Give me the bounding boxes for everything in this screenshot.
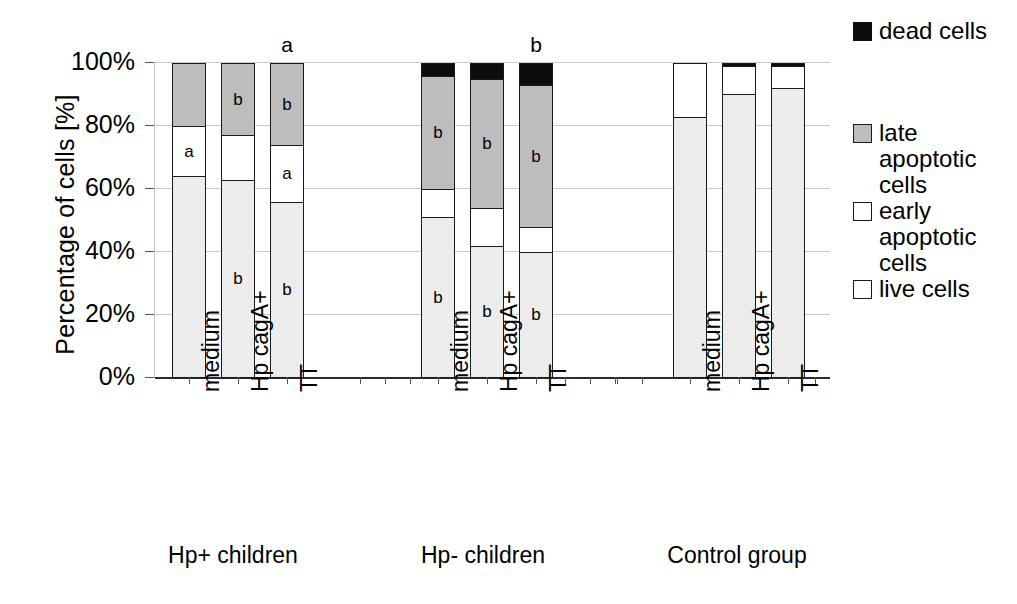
legend-swatch-early-icon — [853, 202, 872, 221]
segment-significance-letter: b — [531, 148, 540, 165]
legend-label-early-line-1: apoptotic — [879, 224, 1017, 250]
x-tick-minor-2 — [410, 377, 411, 384]
x-category-label-hp-pos-cagA: Hp cagA+ — [247, 290, 274, 392]
x-tick-minor-4 — [590, 377, 591, 384]
x-tick-control-cagA — [739, 377, 740, 384]
legend-spacer — [853, 44, 1017, 120]
x-tick-control-tt — [788, 377, 789, 384]
y-tick-label-40: 40% — [15, 238, 135, 263]
bar-segment-early-control-tt — [771, 66, 805, 88]
x-category-label-hp-neg-cagA: Hp cagA+ — [496, 290, 523, 392]
x-tick-hp-neg-tt — [536, 377, 537, 384]
y-tick-label-100: 100% — [15, 49, 135, 74]
y-axis-line — [154, 62, 155, 378]
bar-segment-dead-hp-neg-medium — [421, 63, 455, 76]
segment-significance-letter: b — [282, 96, 291, 113]
segment-significance-letter: b — [282, 281, 291, 298]
x-category-label-control-tt: TT — [797, 364, 824, 392]
bar-segment-dead-hp-neg-cagA — [470, 63, 504, 79]
bar-segment-late-hp-pos-medium — [172, 63, 206, 126]
x-tick-control-medium — [690, 377, 691, 384]
segment-significance-letter: b — [433, 289, 442, 306]
legend-label-dead: dead cells — [879, 18, 987, 44]
legend-label-early-line-2: cells — [879, 250, 1017, 276]
legend-label-late-line-1: apoptotic — [879, 146, 1017, 172]
bar-segment-late-hp-neg-medium: b — [421, 76, 455, 189]
x-tick-minor-6 — [617, 377, 618, 384]
legend: dead cellslateapoptoticcellsearlyapoptot… — [853, 18, 1017, 302]
y-tick-mark-40 — [145, 251, 154, 252]
bar-hp-pos-tt[interactable]: abab — [270, 63, 304, 378]
bar-segment-early-hp-pos-medium: a — [172, 126, 206, 176]
x-category-label-hp-pos-medium: medium — [198, 310, 225, 392]
y-tick-mark-80 — [145, 125, 154, 126]
x-tick-minor-1 — [385, 377, 386, 384]
bar-significance-label-hp-neg-tt: b — [519, 33, 553, 57]
bar-control-tt[interactable] — [771, 63, 805, 378]
legend-row-live: live cells — [853, 276, 1017, 302]
segment-significance-letter: a — [184, 143, 193, 160]
bar-segment-early-hp-pos-tt: a — [270, 145, 304, 202]
x-tick-hp-pos-cagA — [238, 377, 239, 384]
bar-segment-early-hp-pos-cagA — [221, 135, 255, 179]
x-tick-minor-7 — [642, 377, 643, 384]
x-tick-hp-neg-cagA — [487, 377, 488, 384]
bar-segment-live-hp-neg-tt: b — [519, 252, 553, 378]
y-tick-mark-100 — [145, 62, 154, 63]
segment-significance-letter: a — [282, 165, 291, 182]
legend-row-dead: dead cells — [853, 18, 1017, 44]
segment-significance-letter: b — [482, 303, 491, 320]
group-label-2: Control group — [607, 542, 867, 569]
x-tick-hp-neg-medium — [438, 377, 439, 384]
bar-segment-early-hp-neg-tt — [519, 227, 553, 252]
legend-row-late: late — [853, 120, 1017, 146]
bar-significance-label-hp-pos-tt: a — [270, 33, 304, 57]
y-tick-mark-0 — [145, 377, 154, 378]
legend-entry-dead[interactable]: dead cells — [853, 18, 1017, 44]
segment-significance-letter: b — [233, 270, 242, 287]
y-tick-mark-20 — [145, 314, 154, 315]
bar-segment-late-hp-neg-tt: b — [519, 85, 553, 227]
legend-label-early: early — [879, 198, 931, 224]
legend-swatch-late-icon — [853, 124, 872, 143]
legend-label-late: late — [879, 120, 918, 146]
group-label-0: Hp+ children — [103, 542, 363, 569]
bar-segment-early-control-cagA — [722, 66, 756, 94]
x-category-label-hp-neg-medium: medium — [447, 310, 474, 392]
bar-hp-neg-tt[interactable]: bbb — [519, 63, 553, 378]
x-category-label-hp-neg-tt: TT — [545, 364, 572, 392]
bar-segment-late-hp-neg-cagA: b — [470, 79, 504, 208]
x-category-label-hp-pos-tt: TT — [296, 364, 323, 392]
x-tick-minor-5 — [615, 377, 616, 384]
legend-swatch-dead-icon — [853, 22, 872, 41]
bar-segment-live-control-tt — [771, 88, 805, 378]
bar-segment-dead-hp-neg-tt — [519, 63, 553, 85]
legend-entry-live[interactable]: live cells — [853, 276, 1017, 302]
segment-significance-letter: b — [482, 135, 491, 152]
chart-root: Percentage of cells [%] 100%80%60%40%20%… — [0, 0, 1017, 604]
bar-segment-early-hp-neg-medium — [421, 189, 455, 217]
y-tick-label-20: 20% — [15, 301, 135, 326]
x-category-label-control-cagA: Hp cagA+ — [748, 290, 775, 392]
legend-row-early: early — [853, 198, 1017, 224]
bar-segment-early-control-medium — [673, 63, 707, 117]
legend-swatch-live-icon — [853, 280, 872, 299]
x-tick-minor-0 — [360, 377, 361, 384]
x-tick-hp-pos-tt — [287, 377, 288, 384]
legend-entry-late[interactable]: lateapoptoticcells — [853, 120, 1017, 198]
x-category-label-control-medium: medium — [699, 310, 726, 392]
segment-significance-letter: b — [233, 91, 242, 108]
segment-significance-letter: b — [531, 306, 540, 323]
y-tick-label-0: 0% — [15, 364, 135, 389]
y-axis-title: Percentage of cells [%] — [51, 60, 80, 390]
bar-segment-live-hp-pos-tt: b — [270, 202, 304, 378]
y-tick-label-80: 80% — [15, 112, 135, 137]
bar-segment-late-hp-pos-tt: b — [270, 63, 304, 145]
legend-entry-early[interactable]: earlyapoptoticcells — [853, 198, 1017, 276]
legend-label-late-line-2: cells — [879, 172, 1017, 198]
group-label-1: Hp- children — [353, 542, 613, 569]
y-tick-mark-60 — [145, 188, 154, 189]
x-tick-hp-pos-medium — [189, 377, 190, 384]
bar-segment-late-hp-pos-cagA: b — [221, 63, 255, 135]
segment-significance-letter: b — [433, 124, 442, 141]
